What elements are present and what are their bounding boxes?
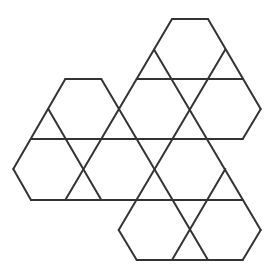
edge-line (48, 109, 101, 200)
edge-line (243, 109, 261, 139)
edge-line (13, 169, 31, 200)
tessellation-diagram (0, 0, 269, 270)
edge-line (119, 230, 137, 260)
edge-line (172, 169, 225, 260)
edge-line (243, 230, 261, 260)
